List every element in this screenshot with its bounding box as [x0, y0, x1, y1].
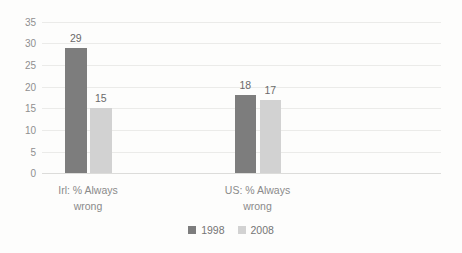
legend-label: 1998	[201, 224, 224, 236]
y-tick-label: 30	[6, 38, 36, 49]
bar-1998-cat1	[235, 95, 257, 173]
category-label: Irl: % Alwayswrong	[58, 183, 118, 214]
chart-legend: 19982008	[0, 224, 462, 236]
x-axis-line	[42, 173, 441, 174]
bar-value-label: 18	[239, 79, 251, 91]
bar-1998-cat0	[65, 48, 87, 174]
y-tick-label: 15	[6, 103, 36, 114]
legend-item-1998: 1998	[188, 224, 224, 236]
y-tick-label: 5	[6, 146, 36, 157]
y-tick-label: 10	[6, 124, 36, 135]
y-tick-label: 20	[6, 81, 36, 92]
bar-value-label: 29	[70, 32, 82, 44]
y-tick-label: 0	[6, 168, 36, 179]
bar-2008-cat1	[260, 100, 282, 174]
category-label: US: % Alwayswrong	[225, 183, 290, 214]
bar-value-label: 15	[95, 92, 107, 104]
bar-value-label: 17	[264, 84, 276, 96]
legend-label: 2008	[251, 224, 274, 236]
legend-swatch	[238, 226, 246, 234]
legend-swatch	[188, 226, 196, 234]
bar-2008-cat0	[90, 108, 112, 173]
y-tick-label: 35	[6, 16, 36, 27]
gridline	[42, 43, 441, 44]
bar-chart: 3530252015105029181517Irl: % Alwayswrong…	[0, 0, 462, 253]
y-tick-label: 25	[6, 59, 36, 70]
legend-item-2008: 2008	[238, 224, 274, 236]
gridline	[42, 65, 441, 66]
gridline	[42, 22, 441, 23]
